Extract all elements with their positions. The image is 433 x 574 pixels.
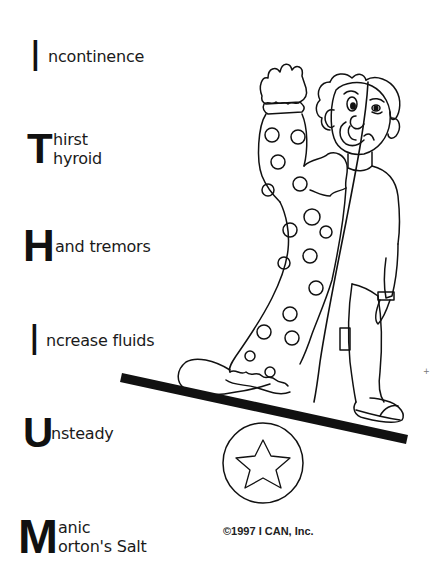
clown-illustration	[0, 0, 433, 574]
star-icon	[236, 440, 290, 488]
margin-mark: +	[423, 367, 430, 376]
hand-icon	[260, 64, 306, 104]
copyright-notice: ©1997 I CAN, Inc.	[223, 525, 314, 537]
ball	[223, 423, 303, 503]
seesaw-plank	[120, 373, 408, 444]
